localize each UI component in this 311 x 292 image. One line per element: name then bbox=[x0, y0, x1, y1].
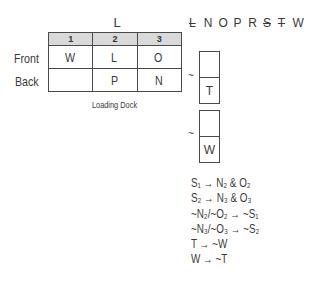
roster-letter-struck: T bbox=[278, 16, 293, 30]
mini-box-bottom-cell: W bbox=[200, 136, 219, 162]
roster-letter: W bbox=[293, 16, 308, 30]
roster-letter: O bbox=[219, 16, 234, 30]
row-label-front: Front bbox=[10, 51, 44, 66]
grid-cell: O bbox=[137, 46, 181, 69]
grid-cell: L bbox=[93, 46, 137, 69]
rule-item: S₁ → N₂ & O₂ bbox=[191, 176, 274, 191]
loading-dock-label: Loading Dock bbox=[60, 100, 170, 110]
roster-letter: P bbox=[233, 16, 248, 30]
grid-header-row: 1 2 3 bbox=[49, 33, 182, 46]
grid-row-back: P N bbox=[49, 69, 182, 92]
mini-box-top-cell bbox=[200, 52, 219, 77]
grid-cell: N bbox=[137, 69, 181, 92]
grid-cell bbox=[49, 69, 93, 92]
mini-box-bottom-cell: T bbox=[200, 77, 219, 103]
top-label: L bbox=[111, 15, 123, 30]
grid-cell: W bbox=[49, 46, 93, 69]
roster-letter-struck: L bbox=[189, 16, 204, 30]
mini-box-t: T bbox=[199, 51, 220, 104]
negation-tilde: ~ bbox=[188, 70, 194, 81]
position-grid: 1 2 3 W L O P N bbox=[48, 32, 182, 92]
negation-tilde: ~ bbox=[188, 128, 194, 139]
mini-box-w: W bbox=[199, 110, 220, 163]
roster-letter-struck: S bbox=[263, 16, 278, 30]
rule-item: W → ~T bbox=[191, 252, 274, 267]
mini-box-top-cell bbox=[200, 111, 219, 136]
letter-roster: LNOPRSTW bbox=[189, 16, 307, 30]
grid-row-front: W L O bbox=[49, 46, 182, 69]
rule-item: S₂ → N₃ & O₃ bbox=[191, 191, 274, 206]
grid-cell: P bbox=[93, 69, 137, 92]
row-label-back: Back bbox=[10, 74, 44, 89]
rule-item: T → ~W bbox=[191, 237, 274, 252]
rules-list: S₁ → N₂ & O₂ S₂ → N₃ & O₃ ~N₂/~O₂ → ~S₁ … bbox=[191, 176, 274, 268]
roster-letter: N bbox=[204, 16, 219, 30]
column-header-2: 2 bbox=[93, 33, 137, 46]
roster-letter: R bbox=[248, 16, 263, 30]
rule-item: ~N₃/~O₃ → ~S₂ bbox=[191, 222, 274, 237]
column-header-1: 1 bbox=[49, 33, 93, 46]
rule-item: ~N₂/~O₂ → ~S₁ bbox=[191, 207, 274, 222]
column-header-3: 3 bbox=[137, 33, 181, 46]
